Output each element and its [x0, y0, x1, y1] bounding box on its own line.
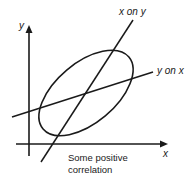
y-axis-arrow-icon [26, 25, 33, 33]
y-on-x-label: y on x [157, 65, 184, 76]
caption-line-1: Some positive [68, 152, 128, 164]
y-on-x-regression-line [12, 72, 153, 117]
regression-lines-diagram: y x x on y y on x Some positive correlat… [0, 0, 195, 180]
x-axis-arrow-icon [160, 141, 168, 148]
x-axis-label: x [163, 148, 168, 159]
caption: Some positive correlation [68, 152, 128, 176]
caption-line-2: correlation [68, 164, 128, 176]
x-on-y-label: x on y [119, 6, 146, 17]
y-axis-label: y [19, 20, 24, 31]
x-on-y-regression-line [41, 20, 133, 162]
